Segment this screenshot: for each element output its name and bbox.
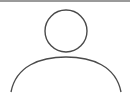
- user-placeholder-icon: [0, 0, 130, 98]
- head-shape: [45, 10, 87, 52]
- shoulders-shape: [11, 57, 121, 92]
- avatar: User avatar: [0, 0, 130, 98]
